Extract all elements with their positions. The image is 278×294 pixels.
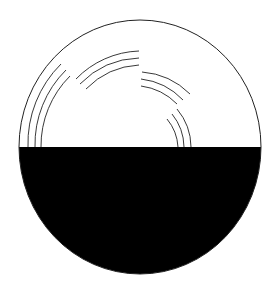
- right-lower-arcs: [167, 109, 191, 147]
- top-center-arcs: [76, 51, 139, 89]
- right-upper-arcs: [141, 72, 190, 104]
- figure-diagram: [0, 0, 278, 294]
- lower-black-half: [19, 147, 261, 274]
- left-arcs: [28, 64, 70, 147]
